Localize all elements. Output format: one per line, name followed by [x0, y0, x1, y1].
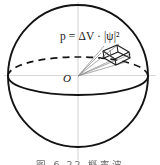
- figure-container: p = ΔV · |ψ|² O 图 6.22 概率波: [0, 0, 160, 165]
- probability-wave-figure: [0, 0, 160, 165]
